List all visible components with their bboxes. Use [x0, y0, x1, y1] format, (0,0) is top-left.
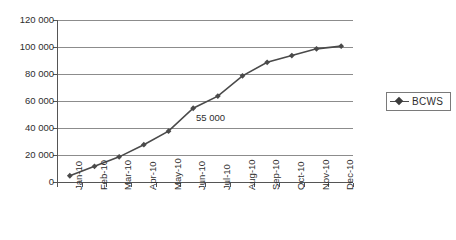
x-tick-label: Oct-10: [296, 161, 306, 190]
x-tick-label: Aug-10: [247, 159, 257, 190]
x-tick-label: Feb-10: [99, 160, 109, 190]
x-tick-label: Apr-10: [148, 161, 158, 190]
x-tick-label: Mar-10: [123, 160, 133, 190]
x-tick-label: Nov-10: [321, 159, 331, 190]
x-tick-label: Sep-10: [271, 159, 281, 190]
x-tick-label: Dec-10: [345, 159, 355, 190]
data-point-annotation: 55 000: [196, 112, 225, 123]
legend-marker-icon: [387, 93, 412, 110]
legend-entry-bcws: BCWS: [387, 93, 450, 110]
chart-legend: BCWS: [386, 92, 451, 111]
x-tick-label: May-10: [173, 158, 183, 190]
diamond-marker-icon: [395, 97, 403, 105]
x-tick-label: Jul-10: [222, 164, 232, 190]
x-axis-tick-labels: Jan-10Feb-10Mar-10Apr-10May-10Jun-10Jul-…: [0, 0, 456, 240]
x-tick-label: Jan-10: [74, 161, 84, 190]
legend-label: BCWS: [412, 96, 443, 107]
x-tick-label: Jun-10: [197, 161, 207, 190]
line-chart: 120 000 100 000 80 000 60 000 40 000 20 …: [0, 0, 456, 240]
